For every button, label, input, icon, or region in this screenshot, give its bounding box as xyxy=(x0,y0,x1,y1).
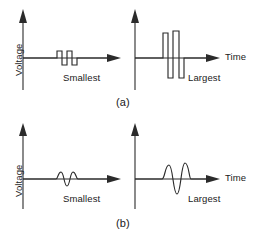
x-axis-label-time: Time xyxy=(225,173,246,183)
y-axis-arrow-icon xyxy=(131,9,139,23)
x-axis-arrow-icon xyxy=(206,54,220,62)
y-axis-label-voltage: Voltage xyxy=(14,165,24,197)
x-axis-label-time: Time xyxy=(225,52,246,62)
annotation-smallest: Smallest xyxy=(63,73,100,83)
panel-b: Voltage Smallest Time Largest (b) xyxy=(0,121,259,242)
figure-waveform-comparison: Voltage Smallest Time Largest (a) xyxy=(0,0,259,242)
waveform-a-largest xyxy=(135,31,207,78)
panel-a: Voltage Smallest Time Largest (a) xyxy=(0,0,259,121)
y-axis-arrow-icon xyxy=(19,9,27,23)
x-axis-arrow-icon xyxy=(107,175,121,183)
x-axis-arrow-icon xyxy=(107,54,121,62)
y-axis-label-voltage: Voltage xyxy=(14,44,24,76)
y-axis-arrow-icon xyxy=(131,123,139,136)
annotation-largest: Largest xyxy=(188,194,220,204)
panel-caption-a: (a) xyxy=(116,97,130,108)
panel-caption-b: (b) xyxy=(116,218,130,229)
annotation-smallest: Smallest xyxy=(63,194,100,204)
y-axis-arrow-icon xyxy=(19,123,27,136)
annotation-largest: Largest xyxy=(188,73,220,83)
x-axis-arrow-icon xyxy=(206,175,220,183)
